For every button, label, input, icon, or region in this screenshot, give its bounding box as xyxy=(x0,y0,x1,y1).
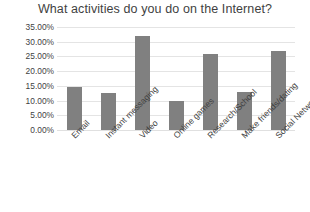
y-axis-tick-label: 25.00% xyxy=(0,52,54,60)
y-axis-tick-label: 20.00% xyxy=(0,67,54,75)
y-axis-tick-label: 5.00% xyxy=(0,111,54,119)
y-axis: 35.00%30.00%25.00%20.00%15.00%10.00%5.00… xyxy=(0,0,54,140)
y-axis-tick-label: 10.00% xyxy=(0,97,54,105)
y-axis-tick-label: 35.00% xyxy=(0,23,54,31)
x-axis: EmailInstant messagingVideoOnline gamesR… xyxy=(0,130,310,212)
y-axis-tick-label: 15.00% xyxy=(0,82,54,90)
y-axis-tick-label: 30.00% xyxy=(0,38,54,46)
bar[interactable] xyxy=(135,36,150,130)
bar[interactable] xyxy=(203,54,218,131)
bar-chart: What activities do you do on the Interne… xyxy=(0,0,310,212)
